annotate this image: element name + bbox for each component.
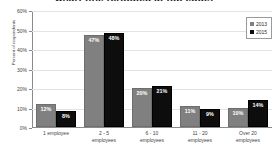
bar-value-label: 21% [153, 89, 171, 94]
chart-title: Chart title (cropped at top edge) [55, 0, 213, 1]
y-axis-tick-label: 50% [17, 28, 27, 34]
legend-item-2013[interactable]: 2013 [250, 20, 267, 28]
bar-group: 11%9% [176, 11, 224, 127]
bar-chart: Chart title (cropped at top edge) Percen… [0, 0, 278, 152]
bar-2015[interactable]: 21% [152, 86, 172, 127]
y-axis-tick-label: 10% [17, 106, 27, 112]
y-axis-tick-label: 0% [20, 125, 27, 131]
bar-value-label: 14% [249, 103, 267, 108]
bar-2015[interactable]: 48% [104, 33, 124, 127]
bar-value-label: 20% [133, 91, 151, 96]
bar-2013[interactable]: 47% [84, 35, 104, 127]
legend-swatch-icon [250, 30, 254, 34]
y-axis-tick-label: 30% [17, 67, 27, 73]
bar-group: 12%8% [32, 11, 80, 127]
bar-value-label: 48% [105, 36, 123, 41]
legend-label: 2013 [256, 21, 267, 27]
legend-item-2015[interactable]: 2015 [250, 28, 267, 36]
bar-value-label: 9% [201, 112, 219, 117]
bar-group: 47%48% [80, 11, 128, 127]
legend-label: 2015 [256, 29, 267, 35]
x-axis-tick-label: 2 - 5employees [80, 130, 128, 144]
x-axis-labels: 1 employee2 - 5employees6 - 10employees1… [32, 130, 272, 144]
bar-2013[interactable]: 10% [228, 108, 248, 128]
x-axis-tick-label: 6 - 10employees [128, 130, 176, 144]
bar-value-label: 10% [229, 111, 247, 116]
bar-value-label: 47% [85, 38, 103, 43]
x-axis-line [32, 127, 272, 128]
y-axis-tick-label: 40% [17, 47, 27, 53]
bar-value-label: 11% [181, 109, 199, 114]
plot-area: 60%50%40%30%20%10%0% 12%8%47%48%20%21%11… [32, 11, 272, 128]
x-axis-tick-label: 11 - 20employees [176, 130, 224, 144]
y-axis-tick-label: 60% [17, 8, 27, 14]
bar-group: 20%21% [128, 11, 176, 127]
bar-value-label: 8% [57, 114, 75, 119]
x-axis-tick-label: Over 20employees [224, 130, 272, 144]
bar-groups: 12%8%47%48%20%21%11%9%10%14% [32, 11, 272, 127]
legend[interactable]: 2013 2015 [246, 17, 272, 39]
y-axis-tick [29, 128, 32, 129]
bar-2013[interactable]: 20% [132, 88, 152, 127]
y-axis-title: Percent of respondents [11, 0, 16, 86]
bar-value-label: 12% [37, 107, 55, 112]
bar-2013[interactable]: 11% [180, 106, 200, 127]
y-axis-tick-label: 20% [17, 86, 27, 92]
x-axis-tick-label: 1 employee [32, 130, 80, 144]
legend-swatch-icon [250, 22, 254, 26]
bar-2015[interactable]: 14% [248, 100, 268, 127]
bar-2013[interactable]: 12% [36, 104, 56, 127]
bar-2015[interactable]: 9% [200, 109, 220, 127]
bar-2015[interactable]: 8% [56, 111, 76, 127]
